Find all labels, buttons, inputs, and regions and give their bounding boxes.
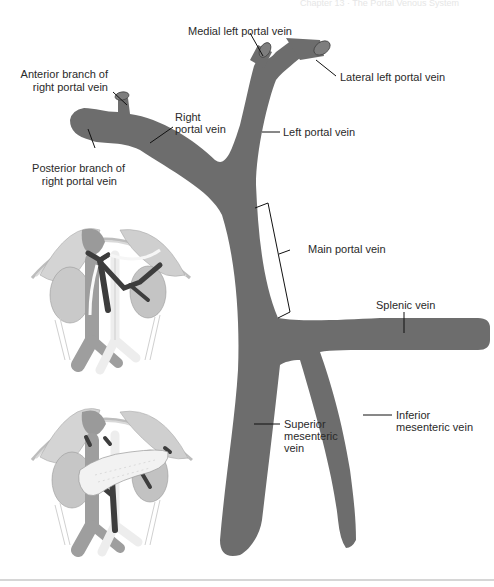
label-anterior-branch-line2: right portal vein: [33, 81, 108, 93]
running-head: Chapter 13 · The Portal Venous System: [300, 0, 459, 8]
label-smv-line1: Superior: [284, 418, 326, 430]
label-smv-line2: mesenteric: [284, 430, 338, 442]
label-splenic-vein: Splenic vein: [376, 299, 435, 311]
label-main-portal-vein: Main portal vein: [308, 243, 386, 255]
label-anterior-branch-line1: Anterior branch of: [21, 68, 109, 80]
label-left-portal-vein: Left portal vein: [283, 126, 355, 138]
inset-anatomy-lower: [32, 409, 192, 552]
label-posterior-branch-line2: right portal vein: [42, 175, 117, 187]
label-medial-left-portal-vein: Medial left portal vein: [188, 25, 292, 37]
label-right-portal-vein-line1: Right: [175, 111, 201, 123]
label-lateral-left-portal-vein: Lateral left portal vein: [340, 71, 445, 83]
portal-vein-diagram: Chapter 13 · The Portal Venous System: [0, 0, 494, 587]
label-imv-line2: mesenteric vein: [396, 421, 473, 433]
inset-anatomy-upper: [32, 228, 190, 370]
label-right-portal-vein-line2: portal vein: [175, 123, 226, 135]
label-smv-line3: vein: [284, 442, 304, 454]
label-imv-line1: Inferior: [396, 409, 431, 421]
label-posterior-branch-line1: Posterior branch of: [32, 162, 126, 174]
